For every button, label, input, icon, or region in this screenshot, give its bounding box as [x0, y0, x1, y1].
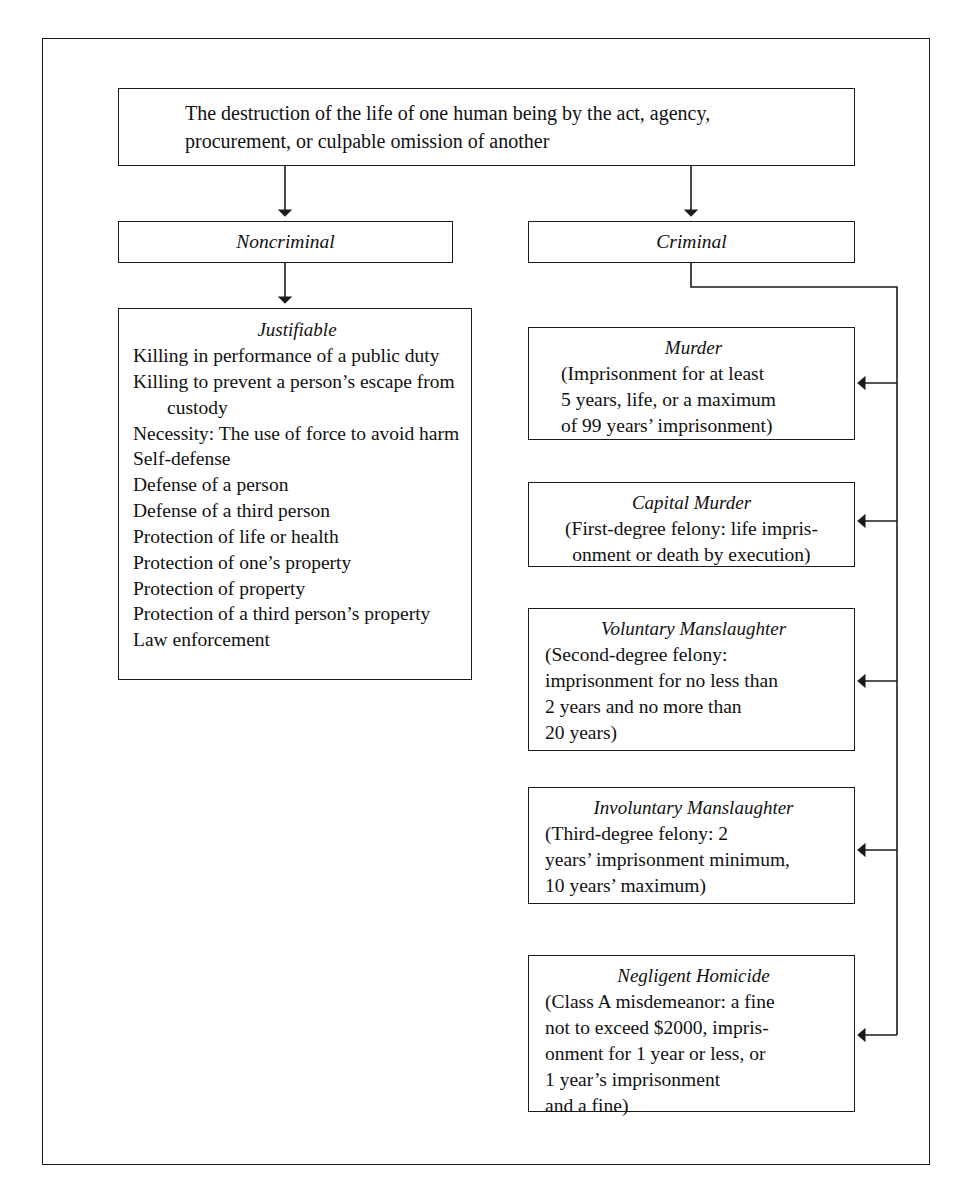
- voluntary-line-2: imprisonment for no less than: [545, 668, 842, 694]
- node-capital-murder: Capital Murder (First-degree felony: lif…: [528, 482, 855, 567]
- list-item: Defense of a third person: [133, 498, 461, 524]
- voluntary-line-3: 2 years and no more than: [545, 694, 842, 720]
- voluntary-line-1: (Second-degree felony:: [545, 642, 842, 668]
- list-item: Protection of property: [133, 576, 461, 602]
- list-item: Self-defense: [133, 446, 461, 472]
- murder-line-2: 5 years, life, or a maximum: [545, 387, 842, 413]
- root-line-1: The destruction of the life of one human…: [185, 99, 834, 127]
- list-item: Law enforcement: [133, 627, 461, 653]
- node-justifiable: Justifiable Killing in performance of a …: [118, 308, 472, 680]
- list-item: Necessity: The use of force to avoid har…: [133, 421, 461, 447]
- negligent-line-1: (Class A misdemeanor: a fine: [545, 989, 842, 1015]
- involuntary-line-3: 10 years’ maximum): [545, 873, 842, 899]
- list-item: Protection of one’s property: [133, 550, 461, 576]
- node-negligent-homicide: Negligent Homicide (Class A misdemeanor:…: [528, 955, 855, 1112]
- justifiable-title: Justifiable: [133, 317, 461, 342]
- node-involuntary-manslaughter: Involuntary Manslaughter (Third-degree f…: [528, 787, 855, 904]
- voluntary-line-4: 20 years): [545, 720, 842, 746]
- list-item: Killing in performance of a public duty: [133, 343, 461, 369]
- murder-title: Murder: [545, 335, 842, 360]
- involuntary-title: Involuntary Manslaughter: [545, 795, 842, 820]
- node-noncriminal: Noncriminal: [118, 221, 453, 263]
- negligent-title: Negligent Homicide: [545, 963, 842, 988]
- root-line-2: procurement, or culpable omission of ano…: [185, 127, 834, 155]
- murder-line-1: (Imprisonment for at least: [545, 361, 842, 387]
- negligent-line-5: and a fine): [545, 1093, 842, 1119]
- node-criminal: Criminal: [528, 221, 855, 263]
- list-item: Killing to prevent a person’s escape fro…: [133, 369, 461, 421]
- list-item: Protection of life or health: [133, 524, 461, 550]
- node-root-definition: The destruction of the life of one human…: [118, 88, 855, 166]
- list-item: Defense of a person: [133, 472, 461, 498]
- noncriminal-title: Noncriminal: [129, 229, 442, 255]
- murder-line-3: of 99 years’ imprisonment): [545, 413, 842, 439]
- involuntary-line-2: years’ imprisonment minimum,: [545, 847, 842, 873]
- negligent-line-2: not to exceed $2000, impris-: [545, 1015, 842, 1041]
- diagram-page: The destruction of the life of one human…: [0, 0, 974, 1190]
- node-murder: Murder (Imprisonment for at least 5 year…: [528, 327, 855, 440]
- capital-murder-line-1: (First-degree felony: life impris-: [541, 516, 842, 542]
- involuntary-line-1: (Third-degree felony: 2: [545, 821, 842, 847]
- node-voluntary-manslaughter: Voluntary Manslaughter (Second-degree fe…: [528, 608, 855, 751]
- negligent-line-3: onment for 1 year or less, or: [545, 1041, 842, 1067]
- list-item: Protection of a third person’s property: [133, 601, 461, 627]
- criminal-title: Criminal: [539, 229, 844, 255]
- capital-murder-line-2: onment or death by execution): [541, 542, 842, 568]
- negligent-line-4: 1 year’s imprisonment: [545, 1067, 842, 1093]
- capital-murder-title: Capital Murder: [541, 490, 842, 515]
- voluntary-title: Voluntary Manslaughter: [545, 616, 842, 641]
